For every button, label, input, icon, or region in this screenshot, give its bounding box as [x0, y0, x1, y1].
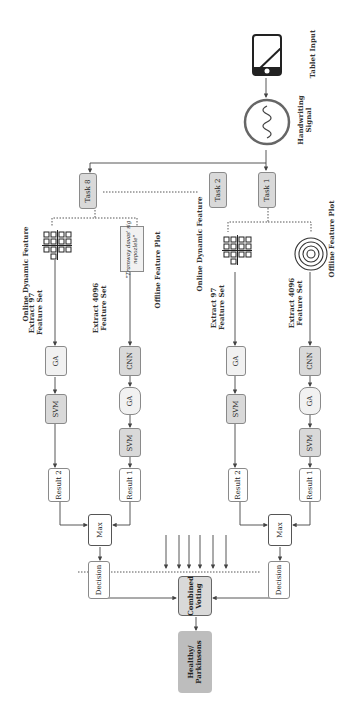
right-ga-top[interactable]: GA	[226, 346, 246, 376]
handwriting-signal-label: Handwriting Signal	[297, 95, 313, 145]
tablet-input-node	[251, 33, 283, 77]
spiral-icon	[293, 236, 329, 272]
right-result-1[interactable]: Result 1	[299, 468, 321, 502]
right-svm-bottom[interactable]: SVM	[299, 428, 321, 457]
handwriting-sample-image: "Tramway davas' sig nepozlele"	[120, 226, 144, 272]
left-offline-label: Offline Feature Plot	[154, 230, 162, 310]
tablet-input-label: Tablet Input	[309, 24, 317, 84]
task-2-box[interactable]: Task 2	[209, 172, 227, 208]
task-1-box[interactable]: Task 1	[258, 172, 276, 208]
feature-grid-icon	[222, 235, 252, 265]
right-cnn[interactable]: CNN	[299, 346, 321, 376]
tablet-icon	[251, 33, 283, 77]
right-max[interactable]: Max	[268, 514, 292, 546]
right-svm-top[interactable]: SVM	[226, 394, 246, 424]
right-offline-label: Offline Feature Plot	[328, 199, 336, 279]
left-result-2[interactable]: Result 2	[48, 468, 70, 502]
left-decision[interactable]: Decision	[88, 561, 110, 599]
left-cnn[interactable]: CNN	[119, 346, 141, 376]
left-ga-top[interactable]: GA	[45, 346, 67, 376]
task-8-box[interactable]: Task 8	[79, 173, 97, 209]
sine-wave-icon	[243, 98, 291, 146]
handwriting-signal-node	[243, 98, 291, 146]
right-extract4096-label: Extract 4096 Feature Set	[288, 277, 304, 329]
left-extract4096-label: Extract 4096 Feature Set	[92, 282, 108, 334]
left-extract97-label: Extract 97 Feature Set	[28, 291, 44, 335]
left-result-1[interactable]: Result 1	[119, 468, 141, 502]
combined-voting-box[interactable]: Combined Voting	[178, 576, 212, 616]
left-svm-top[interactable]: SVM	[45, 394, 67, 424]
right-extract97-label: Extract 97 Feature Set	[210, 286, 226, 330]
right-decision[interactable]: Decision	[268, 561, 290, 599]
right-result-2[interactable]: Result 2	[228, 468, 248, 502]
healthy-parkinsons-output[interactable]: Healthy/ Parkinsons	[178, 631, 212, 693]
left-max[interactable]: Max	[88, 514, 112, 546]
left-svm-bottom[interactable]: SVM	[119, 428, 141, 457]
right-online-label: Online Dynamic Feature	[196, 194, 204, 294]
feature-grid-icon	[42, 230, 72, 260]
left-ga-bottom[interactable]: GA	[119, 387, 141, 415]
right-ga-bottom[interactable]: GA	[299, 387, 321, 415]
